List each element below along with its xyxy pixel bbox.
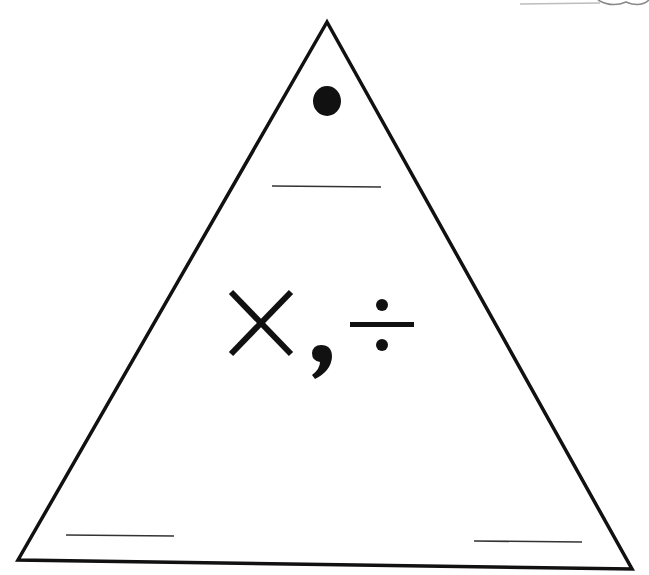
bottom-right-blank-line[interactable] (474, 541, 582, 542)
top-blank-line[interactable] (272, 186, 381, 187)
top-edge-artifact (520, 0, 649, 5)
top-dot-icon (313, 86, 341, 116)
bottom-left-blank-line[interactable] (66, 535, 174, 536)
